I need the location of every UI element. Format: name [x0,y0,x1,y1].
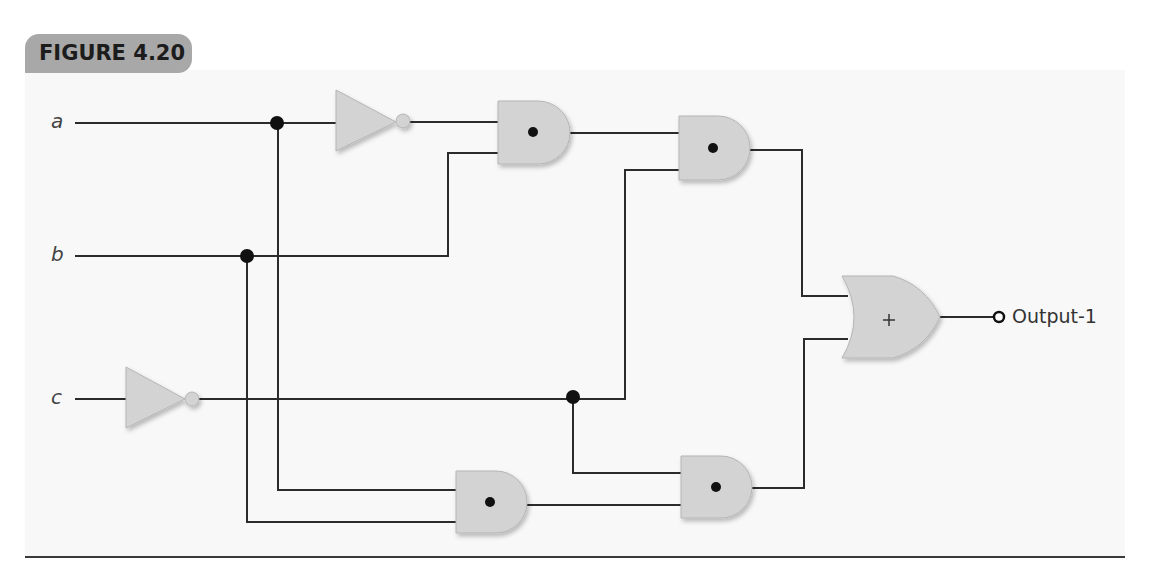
wire-notc-to-and4 [573,397,681,473]
and-dot-icon [528,127,538,137]
and-symbols [485,127,721,507]
and-dot-icon [485,497,495,507]
junction-dot [566,390,580,404]
or-gate [842,276,940,358]
junction-dot [240,249,254,263]
and-dot-icon [708,143,718,153]
wire-a-to-and3 [276,123,456,490]
input-label-b: b [51,242,64,266]
wire-notc-to-and2 [198,170,679,399]
bottom-rule [25,556,1125,558]
not-gate-c [126,367,199,428]
input-label-a: a [51,109,63,133]
and-dot-icon [711,482,721,492]
output-terminal-icon [994,312,1004,322]
output-label: Output-1 [1012,305,1097,327]
not-gate-a [336,90,410,151]
wire-b-to-and1 [75,153,498,256]
logic-circuit-diagram [0,0,1149,583]
wire-and2-to-or [750,150,848,296]
input-label-c: c [51,385,62,409]
wire-and4-to-or [752,339,848,488]
junction-dot [270,116,284,130]
